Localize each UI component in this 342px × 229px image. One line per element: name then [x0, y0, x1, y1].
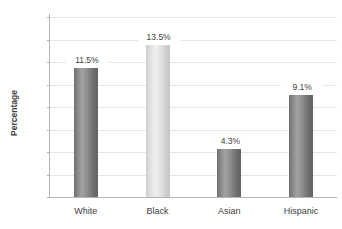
bar-asian[interactable] — [217, 149, 241, 197]
bar-chart: Percentage 0246810121416 11.5%13.5%4.3%9… — [0, 0, 342, 229]
plot-area: 0246810121416 11.5%13.5%4.3%9.1% WhiteBl… — [50, 17, 337, 197]
bar-value-label: 9.1% — [281, 83, 323, 92]
x-label-asian: Asian — [194, 206, 264, 216]
bar-black[interactable] — [146, 45, 170, 197]
x-axis-line — [49, 197, 337, 198]
x-label-hispanic: Hispanic — [266, 206, 336, 216]
bar-white[interactable] — [74, 68, 98, 197]
bar-hispanic[interactable] — [289, 95, 313, 197]
x-label-white: White — [51, 206, 121, 216]
bar-value-label: 11.5% — [66, 56, 108, 65]
y-axis-title: Percentage — [9, 68, 19, 158]
gridline — [50, 40, 337, 41]
x-label-black: Black — [123, 206, 193, 216]
bar-value-label: 4.3% — [209, 137, 251, 146]
bar-value-label: 13.5% — [138, 33, 180, 42]
y-axis-line — [49, 14, 50, 197]
gridline — [50, 17, 337, 18]
